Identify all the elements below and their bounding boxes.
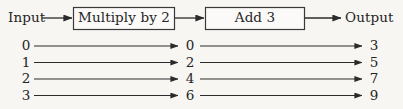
box-add-3-label: Add 3 [205,11,305,25]
middle-value-row-3: 6 [182,89,198,103]
output-value-row-3: 9 [366,89,382,103]
middle-value-row-0: 0 [182,39,198,53]
output-value-row-2: 7 [366,72,382,86]
input-value-row-0: 0 [18,39,34,53]
output-value-row-1: 5 [366,56,382,70]
function-machine-diagram: Input Multiply by 2 Add 3 Output 0 1 2 3… [0,0,403,109]
box-multiply-by-2-label: Multiply by 2 [73,11,175,25]
input-value-row-2: 2 [18,72,34,86]
output-label: Output [345,11,394,25]
input-value-row-1: 1 [18,56,34,70]
middle-value-row-1: 2 [182,56,198,70]
output-value-row-0: 3 [366,39,382,53]
mapping-arrows-input-to-middle [34,46,178,96]
input-label: Input [8,11,45,25]
middle-value-row-2: 4 [182,72,198,86]
diagram-canvas [0,0,403,109]
input-value-row-3: 3 [18,89,34,103]
mapping-arrows-middle-to-output [200,46,362,96]
